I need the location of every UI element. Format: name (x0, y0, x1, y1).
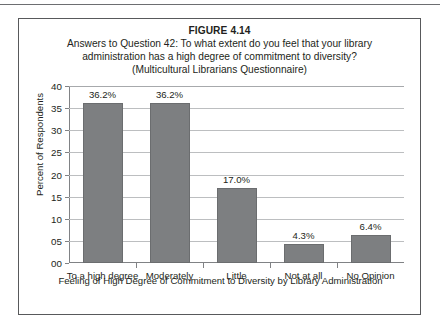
y-axis-tick-label: 15 (51, 191, 62, 202)
bar (150, 103, 190, 263)
y-axis-tick (65, 130, 69, 131)
page-divider-rule (0, 4, 440, 5)
bar (351, 235, 391, 263)
y-axis-tick-label: 30 (51, 125, 62, 136)
y-axis-tick-label: 05 (51, 235, 62, 246)
y-axis-tick-label: 40 (51, 81, 62, 92)
bar-value-label: 4.3% (293, 230, 315, 241)
y-axis-tick-label: 25 (51, 147, 62, 158)
y-axis-tick (65, 152, 69, 153)
y-axis-tick (65, 175, 69, 176)
y-axis-tick (65, 86, 69, 87)
x-axis-tick (270, 263, 271, 268)
y-axis-tick (65, 197, 69, 198)
x-axis-tick (337, 263, 338, 268)
y-axis-tick-label: 00 (51, 258, 62, 269)
bar-value-label: 17.0% (223, 174, 250, 185)
bar-value-label: 36.2% (89, 89, 116, 100)
x-axis-tick (203, 263, 204, 268)
y-axis-tick (65, 219, 69, 220)
y-axis-tick (65, 108, 69, 109)
y-axis-tick-label: 10 (51, 213, 62, 224)
gridline (69, 86, 404, 87)
bar (217, 188, 257, 263)
plot-area: 00051015202530354036.2%To a high degree3… (69, 86, 404, 263)
x-axis-tick (136, 263, 137, 268)
y-axis-tick (65, 263, 69, 264)
y-axis-tick-label: 20 (51, 169, 62, 180)
y-axis-tick-label: 35 (51, 103, 62, 114)
bar-chart: Percent of Respondents 00051015202530354… (19, 19, 422, 316)
y-axis-title: Percent of Respondents (34, 70, 45, 220)
bar-value-label: 6.4% (360, 221, 382, 232)
bar-value-label: 36.2% (156, 89, 183, 100)
y-axis-tick (65, 241, 69, 242)
bar (284, 244, 324, 263)
x-axis-title: Feeling of High Degree of Commitment to … (19, 275, 422, 286)
bar (83, 103, 123, 263)
figure-container: FIGURE 4.14 Answers to Question 42: To w… (18, 18, 421, 315)
